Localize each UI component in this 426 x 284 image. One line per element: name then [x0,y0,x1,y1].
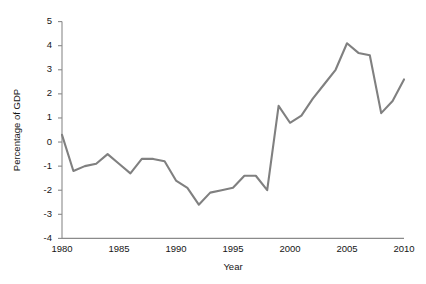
y-tick-label: 0 [47,136,52,147]
y-axis-title: Percentage of GDP [11,89,22,171]
chart-figure: 543210-1-2-3-4 1980198519901995200020052… [0,0,426,284]
y-axis-tick-marks [58,22,62,239]
x-tick-label: 2005 [336,243,357,254]
y-tick-label: 4 [47,39,52,50]
y-tick-label: -3 [44,208,52,219]
line-chart: 543210-1-2-3-4 1980198519901995200020052… [0,0,426,284]
x-tick-label: 1980 [51,243,72,254]
x-axis-tick-labels: 1980198519901995200020052010 [51,243,414,254]
y-tick-label: -4 [44,232,52,243]
x-tick-label: 1995 [222,243,243,254]
x-tick-label: 2010 [393,243,414,254]
y-tick-label: 2 [47,87,52,98]
x-tick-label: 1990 [165,243,186,254]
y-axis-tick-labels: 543210-1-2-3-4 [44,15,52,243]
y-tick-label: 1 [47,111,52,122]
y-tick-label: -1 [44,160,52,171]
y-tick-label: 3 [47,63,52,74]
y-tick-label: -2 [44,184,52,195]
x-axis-title: Year [223,261,242,272]
x-tick-label: 1985 [108,243,129,254]
x-tick-label: 2000 [279,243,300,254]
y-tick-label: 5 [47,15,52,26]
data-series-line [62,43,404,204]
